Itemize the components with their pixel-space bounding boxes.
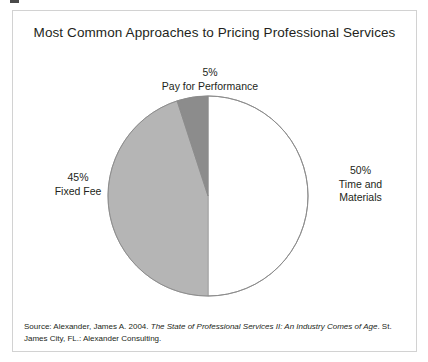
- pie-label-percent: 45%: [23, 171, 133, 185]
- source-prefix: Source: Alexander, James A. 2004.: [24, 322, 151, 331]
- source-citation: Source: Alexander, James A. 2004. The St…: [24, 321, 406, 344]
- pie-chart-svg: [103, 91, 313, 301]
- pie-label-fixed-fee: 45% Fixed Fee: [23, 171, 133, 198]
- pie-label-name: Pay for Performance: [105, 80, 315, 94]
- pie-label-name: Fixed Fee: [23, 185, 133, 199]
- pie-label-time-and-materials: 50% Time and Materials: [308, 164, 413, 205]
- pie-label-name-line1: Time and: [308, 178, 413, 192]
- page-fragment-artifact: [10, 0, 19, 3]
- source-work-title: The State of Professional Services II: A…: [151, 322, 378, 331]
- pie-label-name-line2: Materials: [308, 191, 413, 205]
- figure-frame: Most Common Approaches to Pricing Profes…: [12, 10, 417, 352]
- pie-chart: 5% Pay for Performance 45% Fixed Fee 50%…: [13, 11, 418, 353]
- pie-slice-time-and-materials: [208, 96, 308, 296]
- pie-label-percent: 5%: [105, 66, 315, 80]
- pie-label-percent: 50%: [308, 164, 413, 178]
- pie-label-pay-for-performance: 5% Pay for Performance: [105, 66, 315, 93]
